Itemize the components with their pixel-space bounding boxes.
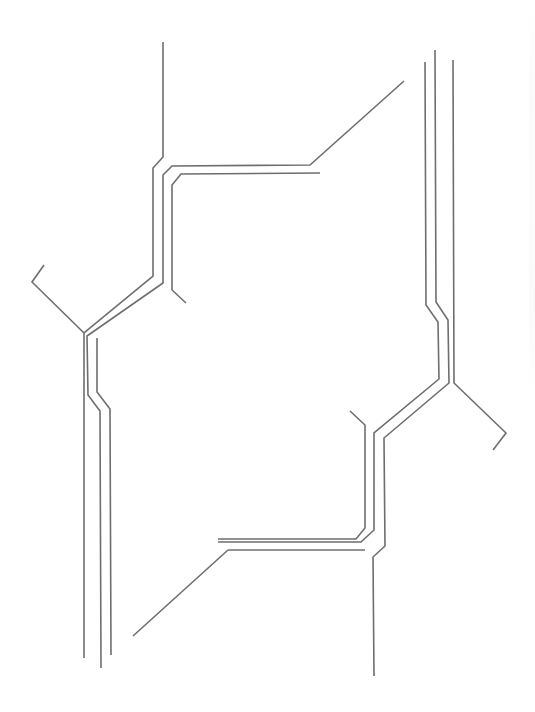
trace-right-bottom-branch <box>133 550 228 636</box>
lower-right-trace-group <box>133 50 506 676</box>
trace-middle <box>87 81 404 668</box>
trace-right-inner-stub <box>218 411 365 539</box>
trace-inner <box>172 173 320 303</box>
trace-inner-lower <box>97 338 111 655</box>
upper-left-trace-group <box>32 42 404 668</box>
trace-right-outer-a <box>218 62 439 542</box>
right-edge-artifact <box>529 0 535 400</box>
trace-left-branch <box>32 265 84 333</box>
trace-right-outer-b <box>373 50 449 676</box>
trace-right-far <box>453 60 506 450</box>
trace-top-entry <box>84 42 163 658</box>
circuit-trace-diagram <box>0 0 535 712</box>
